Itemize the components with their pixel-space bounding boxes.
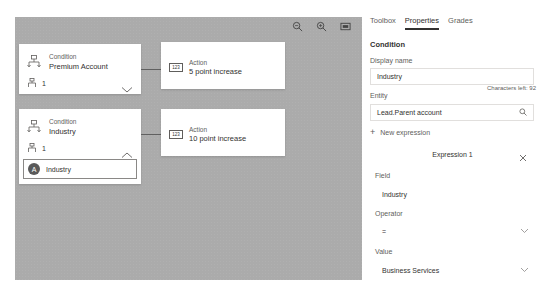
action-body: 123 Action 10 point increase <box>161 109 285 144</box>
connector-line <box>141 69 161 70</box>
expand-chevron-down-icon[interactable] <box>121 80 133 88</box>
branch-count: 1 <box>27 78 46 89</box>
value-selected: Business Services <box>382 267 439 274</box>
canvas-toolbar <box>288 19 354 35</box>
attribute-chip-label: Industry <box>46 166 71 173</box>
value-dropdown[interactable]: Business Services <box>375 262 535 278</box>
fit-to-screen-icon <box>340 18 351 36</box>
zoom-out-icon <box>292 18 303 36</box>
condition-name: Premium Account <box>49 61 108 72</box>
chevron-down-icon <box>520 267 529 274</box>
field-label: Field <box>375 172 390 179</box>
entity-value: Lead.Parent account <box>377 109 442 116</box>
action-type-label: Action <box>189 125 246 134</box>
panel-tabs: Toolbox Properties Grades <box>370 16 473 30</box>
branch-icon <box>27 143 37 154</box>
condition-type-label: Condition <box>49 52 108 61</box>
characters-left-hint: Characters left: 92 <box>487 85 536 91</box>
action-type-label: Action <box>189 58 242 67</box>
action-name: 10 point increase <box>189 134 246 144</box>
branch-count-value: 1 <box>42 80 46 87</box>
operator-value: = <box>382 228 386 235</box>
new-expression-button[interactable]: + New expression <box>370 127 430 137</box>
display-name-input[interactable]: Industry <box>370 68 534 85</box>
segment-designer: Condition Premium Account 1 123 <box>0 0 540 292</box>
expression-title: Expression 1 <box>365 151 540 158</box>
condition-footer: 1 <box>19 137 141 159</box>
branch-icon <box>27 78 37 89</box>
branch-count-value: 1 <box>42 145 46 152</box>
zoom-in-button[interactable] <box>312 19 330 35</box>
condition-name: Industry <box>49 126 76 137</box>
condition-card-premium-account[interactable]: Condition Premium Account 1 <box>19 44 141 94</box>
field-value: Industry <box>382 191 407 198</box>
designer-canvas[interactable]: Condition Premium Account 1 123 <box>15 17 362 280</box>
display-name-label: Display name <box>370 57 412 64</box>
connector-line <box>141 134 161 135</box>
condition-type-label: Condition <box>49 117 76 126</box>
action-body: 123 Action 5 point increase <box>161 42 285 77</box>
condition-tree-icon <box>27 55 41 69</box>
value-label: Value <box>375 248 392 255</box>
number-icon: 123 <box>169 130 183 139</box>
section-title: Condition <box>370 40 405 49</box>
zoom-in-icon <box>316 18 327 36</box>
close-expression-icon[interactable] <box>518 149 528 159</box>
fit-to-screen-button[interactable] <box>336 19 354 35</box>
action-card-10-point-increase[interactable]: 123 Action 10 point increase <box>161 109 285 156</box>
tab-toolbox[interactable]: Toolbox <box>370 16 396 30</box>
attribute-avatar-icon: A <box>28 163 40 175</box>
condition-header: Condition Premium Account <box>19 44 141 72</box>
branch-count: 1 <box>27 143 46 154</box>
action-name: 5 point increase <box>189 67 242 77</box>
zoom-out-button[interactable] <box>288 19 306 35</box>
field-select[interactable]: Industry <box>375 186 535 202</box>
operator-label: Operator <box>375 210 403 217</box>
number-icon: 123 <box>169 63 183 72</box>
tab-grades[interactable]: Grades <box>448 16 473 30</box>
attribute-chip-industry[interactable]: A Industry <box>23 159 137 179</box>
operator-dropdown[interactable]: = <box>375 223 535 239</box>
condition-tree-icon <box>27 120 41 134</box>
condition-footer: 1 <box>19 72 141 94</box>
plus-icon: + <box>370 127 375 137</box>
action-card-5-point-increase[interactable]: 123 Action 5 point increase <box>161 42 285 89</box>
condition-card-industry[interactable]: Condition Industry 1 A Industry <box>19 109 141 184</box>
new-expression-label: New expression <box>380 129 430 136</box>
condition-header: Condition Industry <box>19 109 141 137</box>
display-name-value: Industry <box>377 73 402 80</box>
properties-panel: Toolbox Properties Grades Condition Disp… <box>365 0 540 292</box>
tab-properties[interactable]: Properties <box>405 16 439 30</box>
search-icon[interactable] <box>519 108 527 117</box>
collapse-chevron-up-icon[interactable] <box>121 145 133 153</box>
chevron-down-icon <box>520 228 529 235</box>
entity-label: Entity <box>370 92 388 99</box>
entity-search-input[interactable]: Lead.Parent account <box>370 104 534 121</box>
